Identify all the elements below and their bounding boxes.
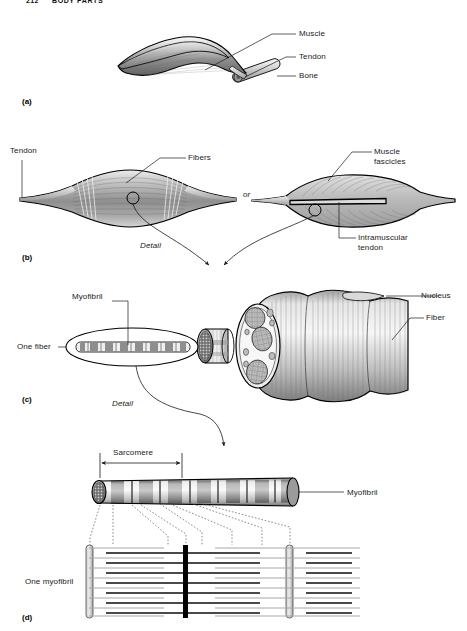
panel-d-artwork (86, 453, 360, 618)
label-bone: Bone (299, 71, 318, 80)
fusiform-muscle (20, 170, 236, 227)
thick-filaments-next (306, 553, 352, 613)
figure-artwork (0, 0, 467, 631)
panel-label-d: (d) (22, 613, 32, 622)
label-nucleus: Nucleus (421, 291, 451, 300)
pennate-muscle (252, 175, 455, 227)
figure-muscle-structure: 212 BODY PARTS (0, 0, 467, 631)
label-detail-b: Detail (140, 241, 161, 250)
panel-label-c: (c) (22, 395, 32, 404)
one-fiber-magnifier (66, 328, 198, 366)
label-one-myofibril: One myofibril (25, 577, 73, 586)
label-fiber: Fiber (426, 313, 445, 322)
projection-lines (90, 503, 290, 545)
label-intramuscular-tendon-line1: Intramuscular (358, 233, 408, 242)
label-myofibril-c: Myofibril (72, 292, 103, 301)
panel-c-artwork (58, 290, 438, 446)
extracted-fascicle (197, 329, 234, 363)
z-line-right (286, 545, 293, 618)
label-sarcomere: Sarcomere (113, 448, 153, 457)
panel-label-b: (b) (22, 253, 32, 262)
z-line-left (86, 545, 93, 618)
label-fibers: Fibers (188, 153, 211, 162)
label-detail-c: Detail (112, 399, 133, 408)
label-or: or (243, 190, 250, 199)
label-intramuscular-tendon-line2: tendon (358, 243, 383, 252)
label-one-fiber: One fiber (17, 342, 51, 351)
label-myofibril-d: Myofibril (347, 488, 378, 497)
filament-diagram (86, 545, 360, 618)
panel-label-a: (a) (22, 97, 32, 106)
label-muscle: Muscle (299, 29, 325, 38)
label-muscle-fascicles-line2: fascicles (374, 157, 406, 166)
m-line (183, 545, 188, 618)
detail-arrow-c-to-d (136, 366, 224, 446)
panel-a-artwork (118, 34, 296, 82)
label-tendon-b: Tendon (10, 146, 37, 155)
panel-b-artwork (20, 152, 455, 265)
label-tendon-a: Tendon (299, 52, 326, 61)
label-muscle-fascicles-line1: Muscle (374, 147, 400, 156)
myofibril-cylinder (92, 478, 299, 506)
fiber-cut-face (236, 304, 280, 388)
